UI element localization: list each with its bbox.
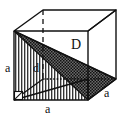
right-angle-marker: [15, 92, 23, 100]
label-edge-bottom-a: a: [45, 103, 50, 115]
cube-top-face-edges: [14, 10, 116, 31]
label-edge-left-a: a: [5, 62, 10, 74]
cube-diagram-svg: [0, 0, 125, 125]
cube-diagonal-figure: D d a a a: [0, 0, 125, 125]
label-edge-right-a: a: [104, 87, 109, 99]
label-space-diagonal-D: D: [71, 38, 81, 52]
label-face-diagonal-d: d: [33, 62, 39, 74]
